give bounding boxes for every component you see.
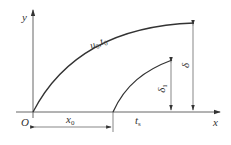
origin-label: O — [21, 117, 29, 128]
x0-label: x0 — [66, 114, 74, 127]
x0-sub: 0 — [71, 119, 75, 127]
delta1-sub: 1 — [161, 84, 169, 88]
diagram-canvas — [0, 0, 231, 145]
delta1-main: δ — [155, 88, 167, 93]
y-axis-label: y — [22, 12, 27, 23]
delta-label: δ — [180, 63, 191, 68]
outer-curve — [33, 23, 194, 112]
delta-main: δ — [179, 63, 191, 68]
delta1-label: δ1 — [156, 84, 169, 93]
ts-label: ts — [135, 115, 141, 128]
x-axis-label: x — [213, 117, 218, 128]
ts-sub: s — [138, 120, 141, 128]
